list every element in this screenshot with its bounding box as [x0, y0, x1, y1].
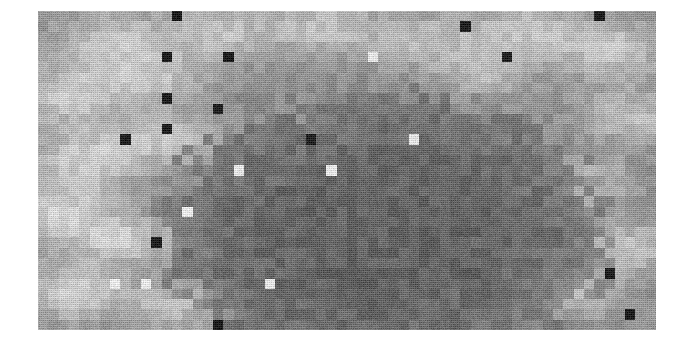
heatmap-raster: [38, 11, 656, 330]
figure-root: Blocky grayscale heatmap with noisy back…: [0, 0, 677, 347]
heatmap-plot-area[interactable]: [38, 11, 656, 330]
